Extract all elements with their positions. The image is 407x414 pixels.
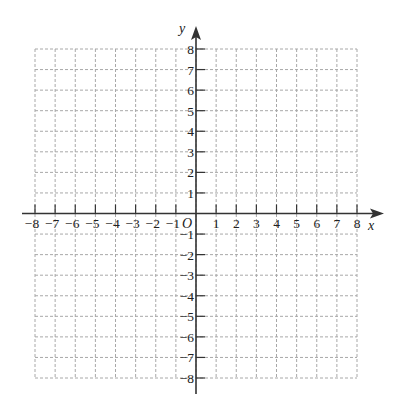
origin-label: O <box>182 216 192 231</box>
x-tick-label: −4 <box>105 216 120 231</box>
x-tick-label: −2 <box>146 216 160 231</box>
x-tick-label: −6 <box>65 216 80 231</box>
y-axis-label: y <box>177 21 186 36</box>
x-tick-label: 8 <box>354 216 361 231</box>
x-tick-label: −1 <box>166 216 180 231</box>
x-tick-label: −7 <box>45 216 60 231</box>
x-tick-label: −5 <box>85 216 100 231</box>
axes <box>22 26 384 394</box>
x-tick-label: 3 <box>253 216 260 231</box>
y-tick-label: 1 <box>187 186 194 201</box>
y-tick-label: −4 <box>180 289 195 304</box>
y-tick-label: −8 <box>180 371 195 386</box>
x-tick-label: 2 <box>233 216 240 231</box>
x-axis-label: x <box>367 218 375 233</box>
y-tick-label: −2 <box>180 248 194 263</box>
y-tick-label: 5 <box>187 104 194 119</box>
y-tick-label: 3 <box>187 145 194 160</box>
y-tick-label: −5 <box>180 309 195 324</box>
x-tick-label: 1 <box>213 216 220 231</box>
x-tick-label: −8 <box>25 216 40 231</box>
x-tick-label: −3 <box>125 216 140 231</box>
coordinate-plane: −8−7−6−5−4−3−2−112345678 87654321−1−2−3−… <box>0 0 407 414</box>
y-tick-label: −7 <box>180 350 195 365</box>
x-tick-label: 7 <box>334 216 341 231</box>
y-tick-label: 4 <box>187 124 194 139</box>
x-tick-label: 5 <box>293 216 300 231</box>
y-tick-label: 8 <box>187 42 194 57</box>
y-tick-label: 7 <box>187 63 194 78</box>
x-tick-label: 4 <box>273 216 280 231</box>
y-tick-label: 6 <box>187 83 194 98</box>
y-tick-label: −3 <box>180 268 195 283</box>
y-tick-label: 2 <box>187 165 194 180</box>
x-tick-label: 6 <box>313 216 320 231</box>
y-tick-label: −6 <box>180 330 195 345</box>
